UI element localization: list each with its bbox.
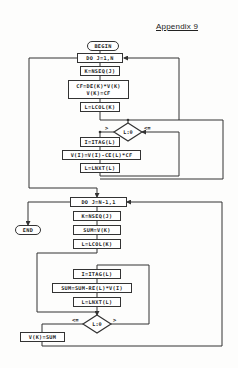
do-loop-1-box: DO J=1,N <box>77 53 123 63</box>
sum-init-box: SUM=V(K) <box>73 225 121 235</box>
decision-text-2: L:0 <box>87 321 107 327</box>
lnxt-box-2: L=LNXT(L) <box>73 297 121 307</box>
decision-1-gt-label: > <box>105 125 108 131</box>
store-sum-box: V(K)=SUM <box>20 332 65 342</box>
decision-1-le-label: <= <box>144 125 151 131</box>
lcol-box-2: L=LCOL(K) <box>73 239 121 249</box>
end-terminal: END <box>15 225 41 235</box>
document-page: Appendix 9 <box>0 0 238 368</box>
begin-terminal: BEGIN <box>87 41 119 51</box>
sum-update-box: SUM=SUM-RE(L)*V(I) <box>52 283 132 293</box>
decision-text-1: L:0 <box>118 129 138 135</box>
v-update-box: V(I)=V(I)-CE(L)*CF <box>62 150 141 160</box>
lnxt-box-1: L=LNXT(L) <box>80 163 120 173</box>
do-loop-2-box: DO J=N-1,1 <box>70 197 127 207</box>
lcol-box-1: L=LCOL(K) <box>80 102 120 112</box>
k-assign-box-2: K=NSEQ(J) <box>73 211 121 221</box>
cf-line-1: CF=DE(K)*V(K) <box>76 83 121 90</box>
itag-box-2: I=ITAG(L) <box>73 269 121 279</box>
cf-line-2: V(K)=CF <box>87 90 111 97</box>
decision-2-gt-label: > <box>113 317 116 323</box>
cf-assign-box: CF=DE(K)*V(K) V(K)=CF <box>68 80 129 99</box>
itag-box-1: I=ITAG(L) <box>80 137 120 147</box>
decision-2-le-label: <= <box>72 317 79 323</box>
k-assign-box-1: K=NSEQ(J) <box>80 66 120 76</box>
